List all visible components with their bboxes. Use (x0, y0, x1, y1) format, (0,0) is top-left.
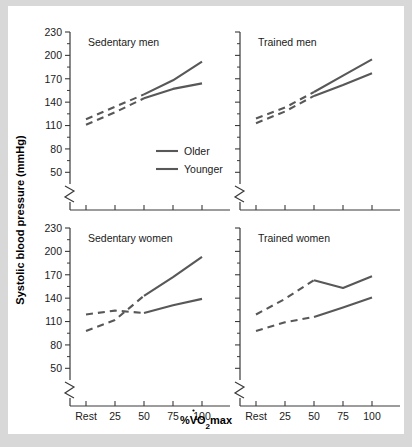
v-dot-icon (192, 409, 194, 411)
series-sedentary-women-younger-solid (144, 299, 202, 313)
series-sedentary-women-younger-dashed (86, 311, 144, 315)
x-tick-label-0-0: Rest (75, 410, 97, 422)
y-axis-break-trained-men (235, 186, 244, 202)
legend-label-older: Older (184, 145, 210, 157)
panel-title-sedentary-women: Sedentary women (88, 232, 173, 244)
legend: OlderYounger (156, 145, 223, 175)
y-tick-label-50: 50 (50, 362, 62, 374)
y-tick-label-230: 230 (44, 222, 62, 234)
y-tick-label-50: 50 (50, 166, 62, 178)
y-tick-label-230: 230 (44, 26, 62, 38)
y-tick-label-80: 80 (50, 143, 62, 155)
x-tick-label-1-0: Rest (245, 410, 267, 422)
x-tick-label-0-3: 75 (167, 410, 179, 422)
panel-trained-men: Trained men (235, 32, 372, 210)
series-trained-women-younger-solid (314, 297, 372, 317)
series-sedentary-men-younger-dashed (86, 98, 144, 125)
series-trained-men-older-dashed (256, 92, 314, 119)
x-tick-label-0-2: 50 (138, 410, 150, 422)
y-tick-label-110: 110 (45, 315, 62, 327)
y-tick-label-200: 200 (44, 49, 62, 61)
panel-title-trained-women: Trained women (258, 232, 330, 244)
series-trained-women-younger-dashed (256, 317, 314, 331)
series-sedentary-women-older-dashed (86, 296, 144, 331)
y-tick-label-170: 170 (44, 73, 62, 85)
chart-svg: 5080110140170200230Sedentary menTrained … (8, 6, 404, 434)
series-trained-men-younger-dashed (256, 96, 314, 123)
series-trained-women-older-dashed (256, 280, 314, 314)
x-tick-label-1-3: 75 (337, 410, 349, 422)
series-sedentary-women-older-solid (144, 257, 202, 296)
legend-label-younger: Younger (184, 163, 223, 175)
panel-title-sedentary-men: Sedentary men (88, 36, 159, 48)
panel-trained-women: Trained women (235, 228, 372, 406)
series-trained-men-older-solid (314, 59, 372, 92)
panel-title-trained-men: Trained men (258, 36, 317, 48)
y-axis-break-sedentary-women (65, 382, 74, 398)
panel-sedentary-women: 5080110140170200230Sedentary women (44, 222, 202, 406)
figure-container: 5080110140170200230Sedentary menTrained … (8, 6, 404, 434)
x-tick-label-0-1: 25 (109, 410, 121, 422)
x-tick-label-1-1: 25 (279, 410, 291, 422)
y-tick-label-140: 140 (44, 96, 62, 108)
x-tick-label-1-4: 100 (363, 410, 381, 422)
y-axis-title: Systolic blood pressure (mmHg) (14, 135, 26, 305)
series-trained-women-older-solid (314, 276, 372, 288)
panel-sedentary-men: 5080110140170200230Sedentary men (44, 26, 202, 210)
y-axis-break-sedentary-men (65, 186, 74, 202)
y-tick-label-140: 140 (44, 292, 62, 304)
y-tick-label-200: 200 (44, 245, 62, 257)
x-tick-label-1-2: 50 (308, 410, 320, 422)
series-sedentary-men-older-dashed (86, 94, 144, 119)
y-tick-label-170: 170 (44, 269, 62, 281)
y-axis-break-trained-women (235, 382, 244, 398)
y-tick-label-110: 110 (45, 119, 62, 131)
y-tick-label-80: 80 (50, 339, 62, 351)
